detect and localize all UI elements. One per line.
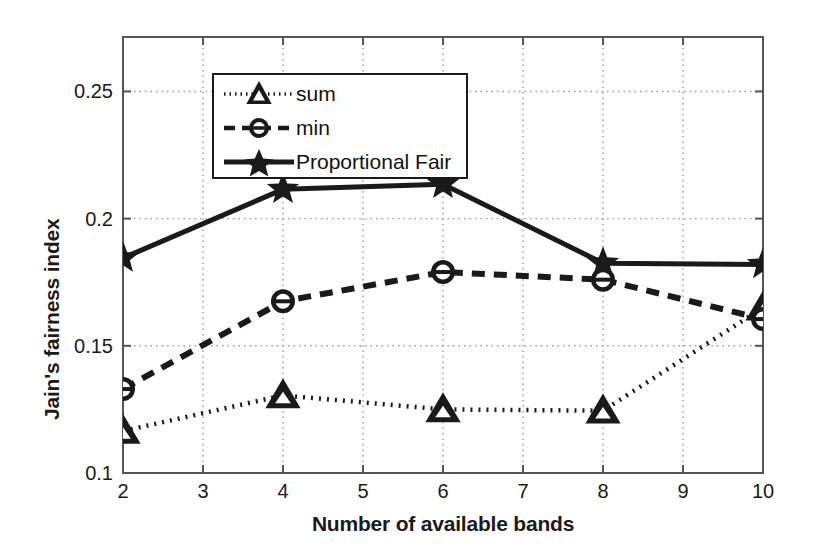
x-tick-label: 9 — [677, 480, 688, 503]
figure-canvas: Jain's fairness index Number of availabl… — [0, 0, 815, 556]
legend-marker-sum-icon — [222, 79, 296, 109]
legend-marker-proportional-fair-icon — [222, 147, 296, 177]
x-tick-label: 6 — [437, 480, 448, 503]
y-tick-label: 0.1 — [85, 462, 113, 485]
x-tick-label: 4 — [277, 480, 288, 503]
legend-marker-min-icon — [222, 113, 296, 143]
data-point-marker-circle — [111, 377, 135, 401]
legend-item-proportional-fair: Proportional Fair — [222, 145, 451, 179]
x-tick-label: 3 — [197, 480, 208, 503]
x-tick-label: 5 — [357, 480, 368, 503]
legend: sum min Proportional Fair — [212, 73, 468, 179]
data-point-marker-triangle — [268, 381, 298, 407]
x-tick-label: 7 — [517, 480, 528, 503]
legend-item-min: min — [222, 111, 330, 145]
x-tick-label: 10 — [752, 480, 774, 503]
legend-label-min: min — [296, 116, 330, 140]
series-line-min — [123, 272, 763, 389]
legend-label-proportional-fair: Proportional Fair — [296, 150, 451, 174]
y-tick-label: 0.15 — [74, 334, 113, 357]
y-tick-label: 0.25 — [74, 80, 113, 103]
legend-item-sum: sum — [222, 77, 336, 111]
data-point-marker-circle — [271, 289, 295, 313]
x-tick-label: 8 — [597, 480, 608, 503]
data-point-marker-circle — [431, 260, 455, 284]
y-tick-label: 0.2 — [85, 207, 113, 230]
x-tick-label: 2 — [117, 480, 128, 503]
data-point-marker-triangle — [108, 417, 138, 443]
data-point-marker-circle — [751, 307, 775, 331]
data-point-marker-triangle — [588, 396, 618, 422]
legend-label-sum: sum — [296, 82, 336, 106]
